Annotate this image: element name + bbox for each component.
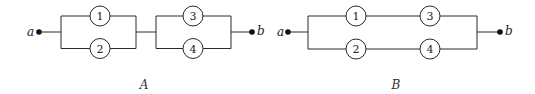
terminal-a-label: a	[27, 25, 34, 39]
component-3: 3	[420, 6, 440, 26]
terminal-b-label: b	[257, 24, 265, 38]
component-3-label: 3	[190, 10, 197, 23]
diagram-a: a 1 2 3 4 b A	[27, 6, 265, 92]
terminal-b-dot	[497, 29, 503, 35]
component-1-label: 1	[97, 10, 104, 23]
component-1: 1	[346, 6, 366, 26]
component-2-label: 2	[353, 43, 360, 56]
diagram-b: a 1 3 2 4 b B	[277, 6, 513, 92]
diagram-b-caption: B	[391, 78, 401, 92]
component-1: 1	[90, 6, 110, 26]
component-2-label: 2	[97, 43, 104, 56]
reliability-diagrams: a 1 2 3 4 b A	[0, 0, 535, 94]
component-2: 2	[346, 39, 366, 59]
component-4: 4	[183, 39, 203, 59]
component-3-label: 3	[427, 10, 434, 23]
component-2: 2	[90, 39, 110, 59]
component-4-label: 4	[190, 43, 197, 56]
component-4: 4	[420, 39, 440, 59]
component-3: 3	[183, 6, 203, 26]
terminal-b-label: b	[505, 24, 513, 38]
component-1-label: 1	[353, 10, 360, 23]
component-4-label: 4	[427, 43, 434, 56]
terminal-a-label: a	[277, 25, 284, 39]
terminal-b-dot	[249, 29, 255, 35]
diagram-a-caption: A	[139, 78, 149, 92]
